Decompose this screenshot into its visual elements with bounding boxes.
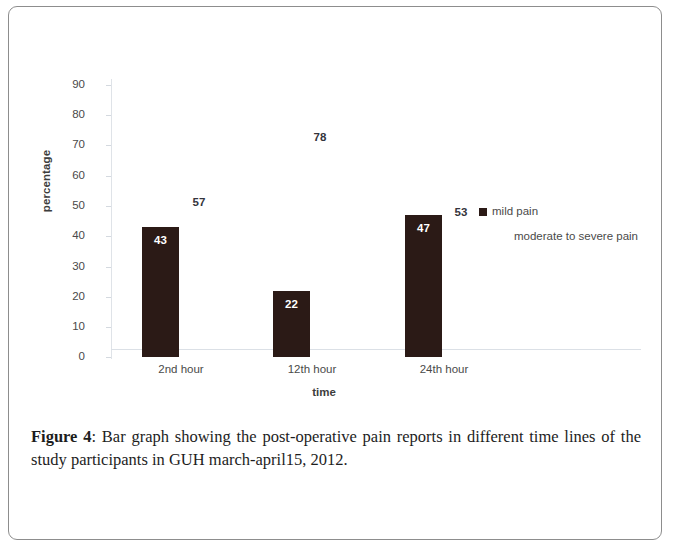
bar-value-label: 47	[405, 222, 442, 234]
chart-legend: mild pain moderate to severe pain	[479, 205, 659, 255]
figure-number: Figure 4	[31, 427, 91, 446]
y-tick-label-30: 30	[45, 261, 85, 272]
bar-mild-pain-12th-hour: 22	[273, 291, 310, 357]
legend-swatch-icon	[501, 233, 509, 241]
y-tick-label-0: 0	[45, 351, 85, 362]
figure-caption: Figure 4: Bar graph showing the post-ope…	[31, 425, 641, 471]
legend-item-mild-pain: mild pain	[479, 205, 659, 218]
y-tick-mark	[106, 297, 111, 298]
y-axis-title: percentage	[40, 136, 52, 226]
bar-value-label-moderate-severe-12th-hour: 78	[298, 131, 342, 143]
bar-mild-pain-2nd-hour: 43	[142, 227, 179, 357]
x-tick-label-12th-hour: 12th hour	[252, 363, 372, 375]
y-tick-mark	[106, 206, 111, 207]
legend-label: mild pain	[492, 205, 538, 218]
y-tick-mark	[106, 176, 111, 177]
x-tick-label-2nd-hour: 2nd hour	[121, 363, 241, 375]
y-tick-mark	[106, 327, 111, 328]
bar-value-label-moderate-severe-2nd-hour: 57	[177, 196, 221, 208]
figure-frame: 0 10 20 30 40 50 60 70 80 90 percentage …	[8, 6, 662, 540]
y-tick-label-80: 80	[45, 109, 85, 120]
legend-swatch-icon	[479, 208, 487, 216]
caption-body: Bar graph showing the post-operative pai…	[31, 427, 641, 469]
y-tick-mark	[106, 236, 111, 237]
legend-label: moderate to severe pain	[514, 230, 638, 243]
x-axis-title: time	[264, 386, 384, 398]
y-tick-label-40: 40	[45, 230, 85, 241]
y-tick-label-10: 10	[45, 321, 85, 332]
legend-item-moderate-to-severe-pain: moderate to severe pain	[479, 230, 659, 243]
y-tick-mark	[106, 85, 111, 86]
bar-value-label: 22	[273, 298, 310, 310]
bar-value-label-moderate-severe-24th-hour: 53	[439, 206, 483, 218]
y-tick-mark	[106, 357, 111, 358]
y-tick-label-20: 20	[45, 291, 85, 302]
x-axis-line	[111, 349, 641, 350]
bar-mild-pain-24th-hour: 47	[405, 215, 442, 357]
bar-value-label: 43	[142, 234, 179, 246]
y-axis-line	[111, 79, 112, 359]
y-tick-mark	[106, 115, 111, 116]
y-tick-mark	[106, 145, 111, 146]
y-tick-label-90: 90	[45, 79, 85, 90]
y-tick-mark	[106, 267, 111, 268]
bar-chart: 0 10 20 30 40 50 60 70 80 90 percentage …	[9, 7, 662, 407]
x-tick-label-24th-hour: 24th hour	[384, 363, 504, 375]
